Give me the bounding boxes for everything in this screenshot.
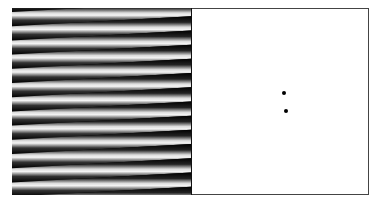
grating-image [12,8,192,195]
grating-stripes [12,8,192,195]
fourier-spectrum-panel [192,8,369,195]
grating-image-panel [12,8,192,195]
spectrum-peak-dot [284,109,288,113]
spectrum-peak-dot [282,91,286,95]
